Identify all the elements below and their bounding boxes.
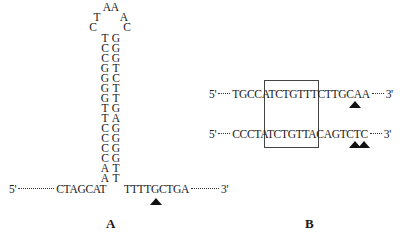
five-prime-label: 5' — [9, 183, 16, 195]
dotted-line — [191, 188, 219, 189]
sequence-a-right: TTTTGCTGA3' — [124, 183, 228, 195]
prefix: TGCC — [232, 88, 261, 100]
five-prime-label: 5' — [209, 128, 216, 140]
prefix: CCCT — [232, 128, 260, 140]
panel-label-b: B — [305, 216, 314, 232]
suffix: TCTTGCAA — [311, 88, 370, 100]
three-prime-label: 3' — [384, 128, 391, 140]
boxed-motif: ATCTGTT — [260, 128, 308, 140]
loop-nucleotide: C — [88, 22, 98, 33]
three-prime-label: 3' — [221, 183, 228, 195]
dotted-line — [18, 188, 54, 189]
sequence-b-row-2: 5'CCCTATCTGTTACAGTCTC3' — [209, 128, 391, 140]
sequence-a-left: 5'CTAGCAT — [9, 183, 106, 195]
five-prime-label: 5' — [209, 88, 216, 100]
suffix: ACAGTCTC — [308, 128, 368, 140]
sequence-b-row-1: 5'TGCCATCTGTTTCTTGCAA3' — [209, 88, 393, 100]
stem-right: T — [111, 173, 121, 184]
dotted-line — [372, 93, 384, 94]
boxed-motif: ATCTGTT — [262, 88, 311, 100]
three-prime-label: 3' — [386, 88, 393, 100]
left-sequence: CTAGCAT — [56, 183, 106, 195]
dotted-line — [218, 133, 230, 134]
panel-label-a: A — [106, 216, 115, 232]
cleavage-triangle-icon — [358, 141, 370, 148]
cleavage-triangle-icon — [150, 198, 162, 205]
right-sequence: TTTTGCTGA — [124, 183, 189, 195]
cleavage-triangle-icon — [349, 101, 361, 108]
loop-nucleotide: C — [122, 22, 132, 33]
dotted-line — [370, 133, 382, 134]
dotted-line — [218, 93, 230, 94]
